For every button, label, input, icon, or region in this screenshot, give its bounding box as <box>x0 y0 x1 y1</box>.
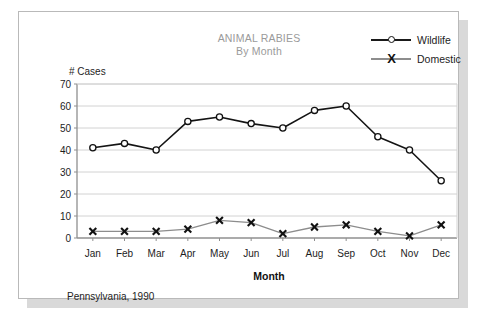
plot-area: 010203040506070 <box>53 80 459 248</box>
data-point-wildlife <box>216 114 222 120</box>
data-point-wildlife <box>90 145 96 151</box>
y-tick-label: 0 <box>65 233 71 244</box>
y-tick-label: 20 <box>60 189 72 200</box>
chart-title: ANIMAL RABIES By Month <box>159 32 359 58</box>
data-point-wildlife <box>438 178 444 184</box>
y-tick-label: 40 <box>60 145 72 156</box>
data-point-wildlife <box>248 121 254 127</box>
screenshot-root: ANIMAL RABIES By Month Wildlife X <box>0 0 480 327</box>
x-marker-icon: X <box>385 52 398 66</box>
legend-label-domestic: Domestic <box>411 53 461 65</box>
y-tick-label: 50 <box>60 123 72 134</box>
data-point-wildlife <box>343 103 349 109</box>
data-point-wildlife <box>280 125 286 131</box>
legend-swatch-domestic: X <box>371 52 411 66</box>
data-point-wildlife <box>121 140 127 146</box>
chart-legend: Wildlife X Domestic <box>371 30 480 68</box>
y-tick-label: 30 <box>60 167 72 178</box>
plot-background <box>77 84 457 238</box>
x-axis-tick-labels: JanFebMarAprMayJunJulAugSepOctNovDec <box>53 248 459 264</box>
x-tick-label: Dec <box>421 248 461 259</box>
data-point-wildlife <box>375 134 381 140</box>
y-tick-label: 60 <box>60 101 72 112</box>
data-point-wildlife <box>153 147 159 153</box>
legend-label-wildlife: Wildlife <box>411 34 451 46</box>
circle-marker-icon <box>385 33 398 47</box>
chart-caption: Pennsylvania, 1990 <box>67 291 154 302</box>
chart-title-main: ANIMAL RABIES <box>218 32 301 44</box>
data-point-wildlife <box>406 147 412 153</box>
legend-swatch-wildlife <box>371 33 411 47</box>
y-tick-label: 70 <box>60 80 72 90</box>
chart-subtitle: By Month <box>159 45 359 58</box>
data-point-wildlife <box>311 107 317 113</box>
data-point-wildlife <box>185 118 191 124</box>
chart-card: ANIMAL RABIES By Month Wildlife X <box>18 11 459 299</box>
y-axis-label: # Cases <box>69 66 106 77</box>
legend-item-domestic[interactable]: X Domestic <box>371 49 480 68</box>
chart-svg: 010203040506070 <box>53 80 459 248</box>
x-axis-title: Month <box>74 270 464 282</box>
legend-item-wildlife[interactable]: Wildlife <box>371 30 480 49</box>
y-tick-label: 10 <box>60 211 72 222</box>
